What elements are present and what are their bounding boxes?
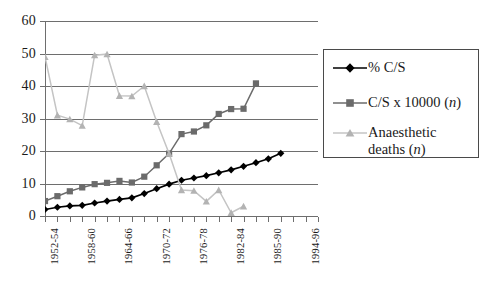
square-data-point: [54, 193, 60, 199]
y-axis-label: 20: [0, 144, 36, 158]
y-axis-label: 40: [0, 79, 36, 93]
x-axis-tick: [306, 217, 307, 222]
x-axis-tick: [194, 217, 195, 222]
square-data-point: [191, 128, 197, 134]
diamond-data-point: [165, 181, 172, 188]
x-axis-label: 1994-96: [311, 228, 322, 264]
y-axis-label: 30: [0, 112, 36, 126]
square-data-point: [45, 198, 48, 204]
y-axis-label: 0: [0, 209, 36, 223]
square-data-point: [129, 179, 135, 185]
x-axis-tick: [82, 217, 83, 222]
diamond-data-point: [128, 194, 135, 201]
triangle-data-point: [228, 209, 235, 216]
square-data-point: [141, 174, 147, 180]
legend-label-cs-rate-text: C/S x 10000 (: [368, 94, 449, 110]
triangle-data-point: [215, 187, 222, 194]
y-axis-label: 10: [0, 177, 36, 191]
diamond-data-point: [228, 166, 235, 173]
square-data-point: [67, 188, 73, 194]
x-axis-tick: [57, 217, 58, 222]
diamond-data-point: [240, 163, 247, 170]
diamond-data-point: [54, 204, 61, 211]
legend-label-anaesthetic-line1: Anaesthetic: [368, 124, 436, 140]
square-data-point: [178, 131, 184, 137]
diamond-data-point: [153, 185, 160, 192]
x-axis-tick: [169, 217, 170, 222]
diamond-data-point: [91, 199, 98, 206]
legend-item-cs-rate: C/S x 10000 (n): [332, 94, 461, 111]
series-line: [45, 153, 281, 209]
x-axis-label: 1976-78: [199, 228, 210, 264]
triangle-data-point: [240, 203, 247, 210]
series-line: [45, 83, 256, 201]
diamond-data-point: [79, 202, 86, 209]
square-data-point: [228, 106, 234, 112]
x-axis-tick: [244, 217, 245, 222]
diamond-data-point: [116, 196, 123, 203]
legend-item-pct-cs: % C/S: [332, 59, 405, 76]
x-axis-label: 1985-90: [273, 228, 284, 264]
legend-label-cs-rate-suffix: ): [456, 94, 461, 110]
diamond-data-point: [252, 159, 259, 166]
diamond-data-point: [215, 169, 222, 176]
diamond-marker-icon: [332, 61, 368, 75]
x-axis-tick: [157, 217, 158, 222]
x-axis-label: 1952-54: [50, 228, 61, 264]
x-axis-label: 1982-84: [236, 228, 247, 264]
square-data-point: [116, 178, 122, 184]
diamond-data-point: [203, 172, 210, 179]
diamond-data-point: [265, 155, 272, 162]
x-axis-label: 1964-66: [124, 228, 135, 264]
x-axis-tick: [206, 217, 207, 222]
chart-figure: 6050403020100 1952-541958-601964-661970-…: [0, 0, 486, 283]
x-axis-tick: [45, 217, 46, 222]
x-axis-label: 1970-72: [162, 228, 173, 264]
x-axis-label: 1958-60: [87, 228, 98, 264]
x-axis-tick: [256, 217, 257, 222]
x-axis-tick: [182, 217, 183, 222]
legend-label-anaesthetic-italic: n: [414, 141, 421, 157]
x-axis-tick: [219, 217, 220, 222]
legend-label-pct-cs: % C/S: [368, 59, 405, 76]
x-axis-tick: [107, 217, 108, 222]
diamond-data-point: [103, 197, 110, 204]
y-axis-label: 50: [0, 47, 36, 61]
triangle-data-point: [79, 122, 86, 129]
square-data-point: [154, 162, 160, 168]
x-axis-tick: [231, 217, 232, 222]
diamond-data-point: [141, 190, 148, 197]
diamond-data-point: [277, 150, 284, 157]
legend-item-anaesthetic-deaths: Anaestheticdeaths (n): [332, 124, 436, 157]
square-data-point: [104, 180, 110, 186]
triangle-data-point: [54, 112, 61, 119]
triangle-data-point: [153, 118, 160, 125]
triangle-marker-icon: [332, 126, 368, 140]
x-axis-tick: [70, 217, 71, 222]
square-marker-icon: [332, 96, 368, 110]
chart-legend: % C/S C/S x 10000 (n) Anaestheticdeaths …: [323, 49, 479, 158]
triangle-data-point: [45, 53, 49, 60]
square-data-point: [253, 80, 259, 86]
legend-label-cs-rate: C/S x 10000 (n): [368, 94, 461, 111]
diamond-data-point: [190, 174, 197, 181]
diamond-data-point: [66, 202, 73, 209]
x-axis-tick: [293, 217, 294, 222]
square-data-point: [203, 122, 209, 128]
triangle-data-point: [141, 83, 148, 90]
x-axis-tick: [318, 217, 319, 222]
square-data-point: [79, 184, 85, 190]
diamond-data-point: [45, 206, 49, 213]
legend-label-anaesthetic-line2: deaths (: [368, 141, 414, 157]
x-axis-tick: [95, 217, 96, 222]
square-data-point: [240, 106, 246, 112]
x-axis-tick: [119, 217, 120, 222]
y-axis-label: 60: [0, 14, 36, 28]
square-data-point: [216, 111, 222, 117]
x-axis-tick: [132, 217, 133, 222]
legend-label-anaesthetic-deaths: Anaestheticdeaths (n): [368, 124, 436, 157]
data-series-layer: [45, 21, 318, 217]
x-axis-tick: [268, 217, 269, 222]
x-axis-tick: [281, 217, 282, 222]
square-data-point: [92, 181, 98, 187]
